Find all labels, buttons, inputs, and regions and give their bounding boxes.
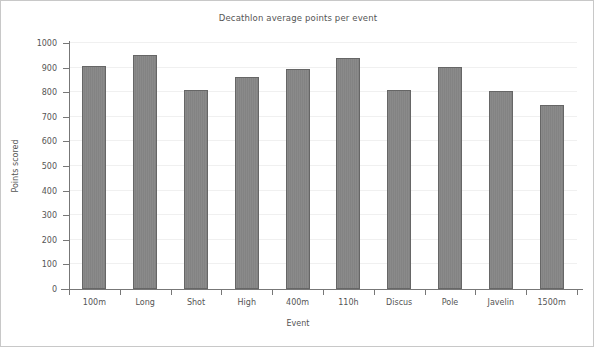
y-axis-tick — [63, 43, 69, 44]
x-axis-tick — [69, 290, 70, 295]
x-axis-line — [61, 289, 583, 290]
y-axis-tick — [63, 240, 69, 241]
y-axis-tick-label: 200 — [17, 235, 57, 244]
y-axis-tick-label: 300 — [17, 211, 57, 220]
x-axis-tick — [272, 290, 273, 295]
bar — [540, 105, 564, 289]
y-axis-tick — [63, 92, 69, 93]
x-axis-tick — [577, 290, 578, 295]
x-axis-tick — [425, 290, 426, 295]
y-axis-tick — [63, 117, 69, 118]
x-axis-tick — [374, 290, 375, 295]
y-axis-tick-label: 0 — [17, 285, 57, 294]
y-axis-tick-label: 500 — [17, 162, 57, 171]
plot-area — [69, 43, 577, 289]
y-axis-tick-label: 900 — [17, 63, 57, 72]
y-axis-tick — [63, 215, 69, 216]
chart-title: Decathlon average points per event — [1, 13, 594, 23]
bar — [286, 69, 310, 289]
bar — [235, 77, 259, 289]
gridline — [69, 42, 577, 43]
x-axis-tick — [171, 290, 172, 295]
y-axis-tick-label: 800 — [17, 88, 57, 97]
x-axis-tick-label: 1500m — [522, 298, 582, 307]
x-axis-label: Event — [1, 319, 594, 328]
x-axis-tick — [221, 290, 222, 295]
y-axis-tick-label: 700 — [17, 112, 57, 121]
y-axis-tick-label: 600 — [17, 137, 57, 146]
chart-figure: Decathlon average points per event Point… — [0, 0, 594, 347]
x-axis-tick — [475, 290, 476, 295]
bar — [438, 67, 462, 289]
y-axis-tick-label: 1000 — [17, 39, 57, 48]
y-axis-tick — [63, 166, 69, 167]
bar — [489, 91, 513, 289]
x-axis-tick — [323, 290, 324, 295]
y-axis-tick — [63, 191, 69, 192]
y-axis-line — [69, 41, 70, 291]
bar — [387, 90, 411, 289]
bar — [133, 55, 157, 289]
y-axis-tick — [63, 68, 69, 69]
bar — [82, 66, 106, 289]
y-axis-tick-label: 400 — [17, 186, 57, 195]
y-axis-tick — [63, 264, 69, 265]
bar — [336, 58, 360, 289]
x-axis-tick — [526, 290, 527, 295]
x-axis-tick — [120, 290, 121, 295]
y-axis-tick — [63, 141, 69, 142]
bar — [184, 90, 208, 289]
y-axis-tick-label: 100 — [17, 260, 57, 269]
